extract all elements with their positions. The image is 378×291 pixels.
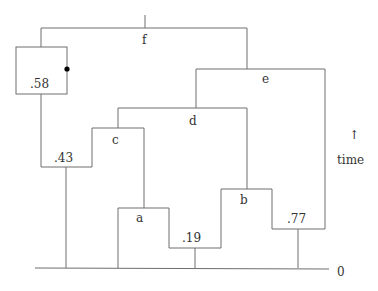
edge-e [196, 69, 325, 229]
value-77: .77 [287, 212, 306, 226]
time-arrow-icon: ↑ [349, 128, 359, 142]
label-e: e [262, 72, 269, 86]
zero-label: 0 [337, 265, 345, 279]
label-b: b [240, 193, 248, 207]
label-a: a [136, 211, 143, 225]
label-f: f [142, 33, 148, 47]
label-d: d [189, 114, 197, 128]
value-19: .19 [182, 231, 201, 245]
marker-dot [64, 66, 69, 71]
edge-43-c [41, 128, 144, 208]
edge-d [118, 108, 247, 189]
value-43: .43 [54, 151, 73, 165]
time-label: time [337, 153, 364, 167]
value-58: .58 [30, 77, 49, 91]
label-c: c [112, 133, 119, 147]
time-baseline [35, 268, 329, 269]
tree-diagram: f e d c a b .58 .43 .19 .77 ↑ time 0 [0, 0, 378, 291]
edge-a-19-b-77 [118, 189, 325, 268]
